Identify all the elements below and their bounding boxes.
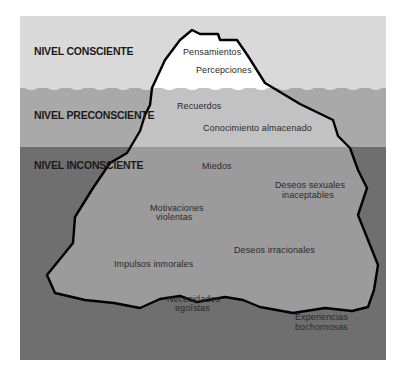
level-label-conscious: NIVEL CONSCIENTE xyxy=(34,45,133,57)
item-miedos: Miedos xyxy=(202,161,232,171)
item-experiencias-line1: Experiencias xyxy=(295,312,348,322)
item-deseos-sexuales-line1: Deseos sexuales xyxy=(275,180,345,190)
level-label-unconscious: NIVEL INCONSCIENTE xyxy=(34,159,144,171)
item-impulsos-inmorales: Impulsos inmorales xyxy=(114,259,194,269)
item-recuerdos: Recuerdos xyxy=(177,101,222,111)
item-conocimiento-almacenado: Conocimiento almacenado xyxy=(203,123,312,133)
iceberg-diagram: NIVEL CONSCIENTE NIVEL PRECONSCIENTE NIV… xyxy=(0,0,403,379)
item-deseos-irracionales: Deseos irracionales xyxy=(234,245,315,255)
item-necesidades-line2: egoístas xyxy=(175,303,210,313)
item-pensamientos: Pensamientos xyxy=(183,47,242,57)
item-motivaciones-line2: violentas xyxy=(156,212,193,222)
item-percepciones: Percepciones xyxy=(196,65,252,75)
item-experiencias-line2: bochornosas xyxy=(295,322,348,332)
item-deseos-sexuales-line2: inaceptables xyxy=(282,190,334,200)
level-label-preconscious: NIVEL PRECONSCIENTE xyxy=(34,109,154,121)
